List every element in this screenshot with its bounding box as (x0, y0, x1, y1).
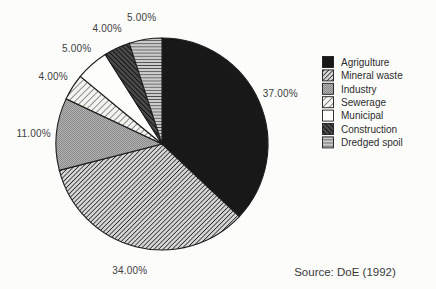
legend-label-sewerage: Sewerage (341, 97, 386, 108)
slice-label-municipal: 5.00% (62, 43, 91, 54)
legend-item-mineral-waste: Mineral waste (323, 70, 404, 81)
slice-label-dredged-spoil: 5.00% (127, 12, 156, 23)
legend-swatch-agrigulture (323, 57, 334, 68)
slice-label-sewerage: 4.00% (38, 71, 67, 82)
legend-label-agrigulture: Agrigulture (341, 57, 390, 68)
legend-label-mineral-waste: Mineral waste (341, 70, 403, 81)
pie-slices-group (56, 38, 268, 250)
legend-swatch-sewerage (323, 97, 334, 108)
legend-label-dredged-spoil: Dredged spoil (341, 137, 403, 148)
legend-label-construction: Construction (341, 124, 397, 135)
source-note: Source: DoE (1992) (294, 266, 396, 278)
legend-swatch-industry (323, 83, 334, 94)
legend-label-municipal: Municipal (341, 110, 383, 121)
legend-swatch-dredged-spoil (323, 137, 334, 148)
legend: AgrigultureMineral wasteIndustrySewerage… (323, 57, 404, 149)
slice-label-agrigulture: 37.00% (263, 88, 298, 99)
legend-swatch-mineral-waste (323, 70, 334, 81)
slice-label-industry: 11.00% (16, 128, 50, 139)
legend-item-industry: Industry (323, 83, 377, 94)
legend-label-industry: Industry (341, 84, 377, 95)
legend-swatch-municipal (323, 110, 334, 121)
legend-item-municipal: Municipal (323, 110, 384, 121)
legend-swatch-construction (323, 124, 334, 135)
slice-label-construction: 4.00% (92, 23, 121, 34)
pie-chart-canvas: 37.00%34.00%11.00%4.00%5.00%4.00%5.00% A… (0, 0, 436, 289)
legend-item-dredged-spoil: Dredged spoil (323, 137, 403, 148)
legend-item-agrigulture: Agrigulture (323, 57, 390, 68)
legend-item-sewerage: Sewerage (323, 97, 387, 108)
slice-label-mineral-waste: 34.00% (112, 265, 147, 276)
waste-disposal-pie-chart-figure: 37.00%34.00%11.00%4.00%5.00%4.00%5.00% A… (0, 0, 436, 289)
legend-item-construction: Construction (323, 124, 398, 135)
